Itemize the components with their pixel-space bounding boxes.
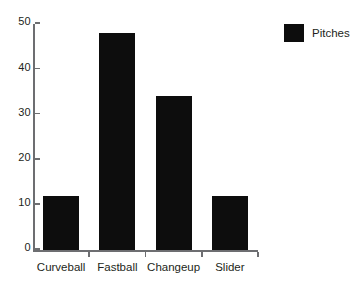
y-axis-tick-label: 40	[18, 61, 30, 74]
y-axis-tick: 0	[35, 248, 40, 250]
y-axis-tick-label: 30	[18, 106, 30, 119]
legend-label-pitches: Pitches	[312, 26, 350, 40]
x-axis-label-slider: Slider	[202, 260, 258, 274]
x-axis-tick	[201, 252, 203, 257]
y-axis-tick-label: 20	[18, 151, 30, 164]
x-axis-label-curveball: Curveball	[33, 260, 89, 274]
x-axis-label-fastball: Fastball	[89, 260, 145, 274]
legend-swatch-pitches	[284, 24, 304, 42]
x-axis-tick	[88, 252, 90, 257]
bar-slider	[212, 196, 248, 250]
bar-curveball	[43, 196, 79, 250]
x-axis-tick	[257, 252, 259, 257]
y-axis-tick: 40	[35, 68, 40, 70]
x-axis-label-changeup: Changeup	[146, 260, 202, 274]
y-axis-tick: 50	[35, 22, 40, 24]
y-axis-tick: 10	[35, 203, 40, 205]
bar-chart: 01020304050 CurveballFastballChangeupSli…	[0, 0, 361, 283]
y-axis-tick-label: 0	[24, 241, 30, 254]
y-axis-tick: 30	[35, 113, 40, 115]
bar-fastball	[99, 33, 135, 250]
y-axis-tick-label: 10	[18, 196, 30, 209]
y-axis-line	[33, 24, 35, 250]
plot-area: 01020304050 CurveballFastballChangeupSli…	[33, 22, 258, 250]
y-axis-tick: 20	[35, 158, 40, 160]
y-axis-tick-label: 50	[18, 15, 30, 28]
bar-changeup	[156, 96, 192, 250]
x-axis-tick	[145, 252, 147, 257]
chart-legend: Pitches	[284, 24, 350, 42]
